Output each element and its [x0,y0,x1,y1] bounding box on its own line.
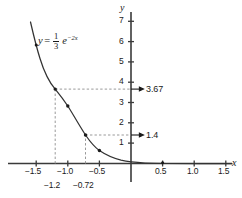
point-marker-minus1p2 [54,87,57,90]
y-tick-label-5: 5 [119,57,124,66]
under-axis-label-minus0p72: −0.72 [73,181,94,190]
point-marker-minus0p72 [84,133,87,136]
y-tick-label-1: 1 [119,138,124,147]
callout-arrowhead-3p67 [139,87,143,91]
callout-arrows-group [131,87,144,137]
y-tick-label-2: 2 [119,118,124,127]
x-axis-label: x [232,158,236,168]
point-marker-0p5 [161,161,164,164]
equation-denominator: 3 [53,41,59,51]
equation-numerator: 1 [53,32,59,41]
callout-label-1p4: 1.4 [146,131,158,140]
equation-lhs: y [38,36,43,47]
under-axis-label-minus1p2: −1.2 [44,181,60,190]
x-tick-label-minus1p0: −1.0 [57,167,73,176]
callout-arrowhead-1p4 [139,133,143,137]
point-marker-minus0p5 [98,149,101,152]
equation-exponent: −2x [67,35,78,42]
curve-point-markers [35,44,164,165]
y-tick-label-3: 3 [119,98,124,107]
y-tick-label-6: 6 [119,37,124,46]
x-tick-label-1p0: 1.0 [187,167,198,176]
callout-label-3p67: 3.67 [146,85,163,94]
y-axis-label: y [120,3,124,13]
y-tick-label-4: 4 [119,77,124,86]
y-axis-group [128,12,134,182]
equation-fraction: 1 3 [53,32,59,51]
point-marker-minus1p0 [66,104,69,107]
y-tick-label-7: 7 [119,16,124,25]
exponential-decay-graph-figure: y = 1 3 e−2x y x 7 6 5 4 3 2 1 −1.5 −1.0… [0,0,242,198]
equation-equals: = [44,36,50,47]
x-tick-label-minus0p5: −0.5 [89,167,105,176]
curve-equation-label: y = 1 3 e−2x [38,32,78,51]
x-tick-label-1p5: 1.5 [218,167,229,176]
x-tick-label-minus1p5: −1.5 [25,167,41,176]
x-tick-label-0p5: 0.5 [155,167,166,176]
